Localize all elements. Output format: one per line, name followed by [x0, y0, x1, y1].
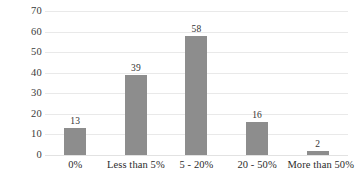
bar-group: 13: [45, 11, 106, 155]
bar-group: 2: [287, 11, 348, 155]
y-axis-tick-label: 20: [2, 109, 42, 120]
y-axis-tick-label: 0: [2, 150, 42, 161]
x-axis: 0%Less than 5%5 - 20%20 - 50%More than 5…: [45, 159, 348, 181]
x-axis-category-label: More than 50%: [287, 159, 348, 171]
y-axis-tick-label: 70: [2, 6, 42, 17]
y-axis-tick-label: 60: [2, 27, 42, 38]
bar[interactable]: [246, 122, 268, 155]
bar-value-label: 2: [315, 139, 320, 150]
bar-group: 39: [106, 11, 167, 155]
plot-area: 133958162: [45, 0, 348, 181]
bar[interactable]: [307, 151, 329, 155]
x-axis-category-label: 0%: [45, 159, 106, 171]
bar-chart: 706050403020100 133958162 0%Less than 5%…: [0, 0, 362, 181]
bar-group: 58: [166, 11, 227, 155]
y-axis-tick-label: 50: [2, 47, 42, 58]
x-axis-category-label: 5 - 20%: [166, 159, 227, 171]
bar-value-label: 13: [70, 116, 80, 127]
bar-value-label: 39: [131, 63, 141, 74]
y-axis-tick-label: 30: [2, 88, 42, 99]
y-axis-tick-label: 40: [2, 68, 42, 79]
bar-value-label: 58: [192, 24, 202, 35]
y-axis: 706050403020100: [0, 0, 42, 181]
bar[interactable]: [64, 128, 86, 155]
y-axis-tick-label: 10: [2, 129, 42, 140]
bar-value-label: 16: [252, 110, 262, 121]
x-axis-category-label: 20 - 50%: [227, 159, 288, 171]
bar[interactable]: [185, 36, 207, 155]
x-axis-category-label: Less than 5%: [106, 159, 167, 171]
bar-group: 16: [227, 11, 288, 155]
bar[interactable]: [125, 75, 147, 155]
